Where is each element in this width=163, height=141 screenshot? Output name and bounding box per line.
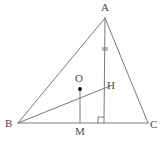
right-angle-at-foot-of-altitude — [98, 117, 104, 123]
side-AC — [105, 18, 148, 123]
side-AB — [18, 18, 105, 123]
points-group — [78, 87, 82, 91]
geometry-figure: A B C M O H — [0, 0, 163, 141]
point-marker-o — [78, 87, 82, 91]
point-label-m: M — [75, 126, 85, 137]
point-label-h: H — [107, 80, 115, 91]
segments-group — [18, 18, 148, 123]
vertex-label-a: A — [101, 2, 109, 13]
vertex-label-c: C — [150, 119, 157, 130]
point-label-o: O — [75, 73, 83, 84]
altitude-AD — [104, 18, 105, 123]
figure-canvas — [0, 0, 163, 141]
vertex-label-b: B — [5, 118, 12, 129]
segment-BH — [18, 86, 110, 123]
